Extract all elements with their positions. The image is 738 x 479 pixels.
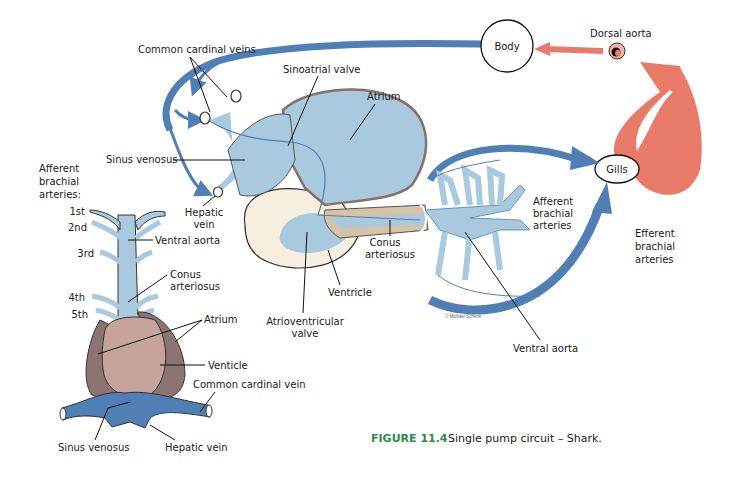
lateral-conus-label-1: Conus xyxy=(370,237,401,248)
arch-label-4th: 4th xyxy=(68,292,85,303)
caption-number: FIGURE 11.4 xyxy=(371,432,448,445)
efferent-label-2: brachial xyxy=(635,241,675,252)
body-label: Body xyxy=(494,41,519,52)
dorsal-aorta-arrow: Dorsal aorta xyxy=(534,28,652,59)
credit-text: © Michael Schenk xyxy=(445,313,482,319)
ventral-sinus-venosus-label: Sinus venosus xyxy=(58,442,129,453)
figure-caption: FIGURE 11.4 Single pump circuit – Shark. xyxy=(371,432,602,445)
hepatic-vein-label-1: Hepatic xyxy=(185,207,223,218)
afferent-label-2: brachial xyxy=(533,208,573,219)
hepatic-vein-label-2: vein xyxy=(193,219,214,230)
afferent-label-3: arteries xyxy=(533,220,572,231)
gills-label: Gills xyxy=(606,164,627,175)
afferent-heading-2: brachial xyxy=(39,176,79,187)
ventral-atrium-label: Atrium xyxy=(204,314,238,325)
common-cardinal-vein-label: Common cardinal vein xyxy=(193,379,306,390)
atrium-label: Atrium xyxy=(367,91,401,102)
caption-text: Single pump circuit – Shark. xyxy=(448,432,602,445)
afferent-label-1: Afferent xyxy=(533,196,573,207)
lateral-ventral-aorta-label: Ventral aorta xyxy=(513,343,578,354)
ventral-ventricle-label: Venticle xyxy=(208,360,248,371)
efferent-label-1: Efferent xyxy=(635,228,675,239)
ventral-conus-label-2: arteriosus xyxy=(170,281,220,292)
efferent-label-3: arteries xyxy=(635,254,674,265)
av-valve-label-1: Atrioventricular xyxy=(266,316,345,327)
common-cardinal-veins-label: Common cardinal veins xyxy=(138,44,256,55)
sinus-venosus-label: Sinus venosus xyxy=(106,154,177,165)
sinoatrial-valve-label: Sinoatrial valve xyxy=(283,64,361,75)
lateral-conus-label-2: arteriosus xyxy=(365,249,415,260)
arch-label-5th: 5th xyxy=(71,309,88,320)
afferent-heading-3: arteries: xyxy=(39,189,81,200)
lateral-labels: Common cardinal veins Sinoatrial valve A… xyxy=(106,44,675,354)
dorsal-aorta-label: Dorsal aorta xyxy=(590,28,652,39)
shark-circulation-diagram: Body Dorsal aorta Gills xyxy=(0,0,738,479)
arch-label-2nd: 2nd xyxy=(68,222,87,233)
ventral-conus-label-1: Conus xyxy=(170,269,201,280)
body-node: Body xyxy=(481,20,533,72)
av-valve-label-2: valve xyxy=(292,328,319,339)
arch-label-1st: 1st xyxy=(70,206,86,217)
gills-node: Gills xyxy=(595,155,639,183)
lateral-ventricle-label: Ventricle xyxy=(328,287,372,298)
ventral-hepatic-vein-label: Hepatic vein xyxy=(165,442,228,453)
arch-label-3rd: 3rd xyxy=(77,248,94,259)
afferent-heading-1: Afferent xyxy=(39,163,79,174)
ventral-aorta-label: Ventral aorta xyxy=(155,235,220,246)
